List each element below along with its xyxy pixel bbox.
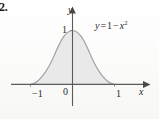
x-axis-label: x — [139, 87, 143, 97]
y-axis-label: y — [68, 5, 72, 15]
equation-equals-sign: = — [99, 20, 107, 31]
curve-equation-label: y=1−x2 — [95, 21, 127, 31]
equation-minus-sign: − — [112, 20, 120, 31]
x-tick-label-negative-one: −1 — [32, 89, 43, 99]
equation-exponent: 2 — [124, 19, 127, 26]
figure-container: 2. y x 1 0 −1 1 y=1−x2 — [0, 0, 159, 119]
x-tick-label-positive-one: 1 — [116, 89, 121, 99]
x-axis-arrowhead — [143, 81, 151, 88]
plot-canvas — [0, 0, 159, 119]
y-tick-label-one: 1 — [62, 25, 67, 35]
origin-tick-label: 0 — [63, 87, 68, 97]
